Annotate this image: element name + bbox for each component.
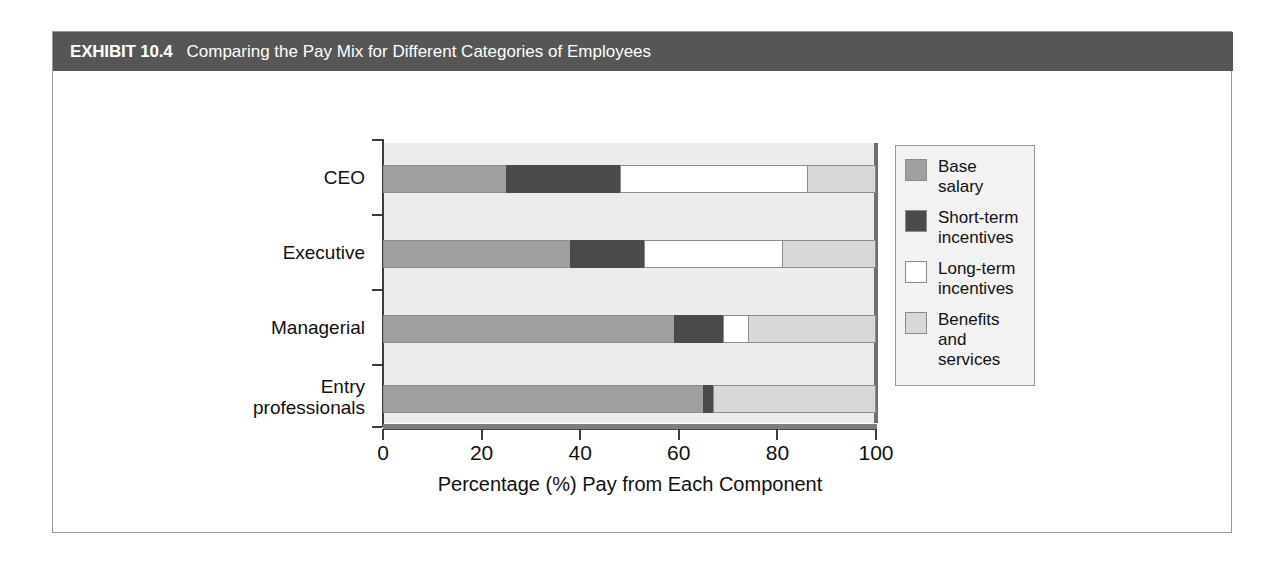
legend-swatch-short-term-incentives [905,210,927,232]
y-tick-0 [372,139,382,141]
bar-segment-long-term-incentives [620,165,807,193]
x-tick-20 [481,429,483,440]
bar-segment-long-term-incentives [723,315,748,343]
x-tick-label-60: 60 [667,441,690,465]
exhibit-title: Comparing the Pay Mix for Different Cate… [186,42,651,62]
exhibit-number: EXHIBIT 10.4 [70,42,172,62]
y-tick-2 [372,289,382,291]
y-tick-3 [372,364,382,366]
legend-label: Long-term incentives [938,259,1015,299]
bar-segment-short-term-incentives [506,165,619,193]
bar-segment-benefits-and-services [807,165,876,193]
bar-row [383,315,876,343]
bar-segment-short-term-incentives [703,385,713,413]
bar-segment-base-salary [383,240,570,268]
legend-swatch-base-salary [905,159,927,181]
x-tick-0 [382,429,384,440]
bar-segment-short-term-incentives [570,240,644,268]
bar-segment-base-salary [383,385,703,413]
bar-row [383,240,876,268]
legend-item: Long-term incentives [905,259,1025,299]
bar-row [383,165,876,193]
chart-area: CEOExecutiveManagerialEntry professional… [53,71,1233,533]
legend-item: Benefits and services [905,310,1025,370]
bar-segment-base-salary [383,315,674,343]
chart-legend: Base salaryShort-term incentivesLong-ter… [895,145,1035,386]
exhibit-header: EXHIBIT 10.4 Comparing the Pay Mix for D… [53,32,1233,71]
x-axis-line [383,429,877,430]
x-tick-label-40: 40 [569,441,592,465]
bar-segment-benefits-and-services [748,315,876,343]
x-tick-100 [875,429,877,440]
legend-label: Benefits and services [938,310,1025,370]
x-tick-60 [678,429,680,440]
legend-label: Short-term incentives [938,208,1018,248]
bar-segment-benefits-and-services [713,385,876,413]
legend-item: Base salary [905,157,1025,197]
x-tick-label-20: 20 [470,441,493,465]
x-axis-title: Percentage (%) Pay from Each Component [383,473,877,496]
y-tick-4 [372,426,382,428]
x-tick-label-0: 0 [377,441,389,465]
legend-swatch-benefits-and-services [905,312,927,334]
bar-segment-short-term-incentives [674,315,723,343]
exhibit-card: EXHIBIT 10.4 Comparing the Pay Mix for D… [52,31,1232,533]
x-tick-label-80: 80 [766,441,789,465]
category-label-managerial: Managerial [271,317,365,338]
bar-row [383,385,876,413]
category-label-executive: Executive [283,242,365,263]
x-tick-label-100: 100 [858,441,893,465]
category-label-ceo: CEO [324,167,365,188]
category-label-entry-professionals: Entry professionals [253,376,365,419]
legend-label: Base salary [938,157,1025,197]
bar-segment-benefits-and-services [782,240,876,268]
bar-segment-long-term-incentives [644,240,782,268]
y-axis-category-labels: CEOExecutiveManagerialEntry professional… [113,71,365,431]
x-tick-40 [579,429,581,440]
y-tick-1 [372,214,382,216]
bar-segment-base-salary [383,165,506,193]
legend-swatch-long-term-incentives [905,261,927,283]
legend-item: Short-term incentives [905,208,1025,248]
x-tick-80 [776,429,778,440]
